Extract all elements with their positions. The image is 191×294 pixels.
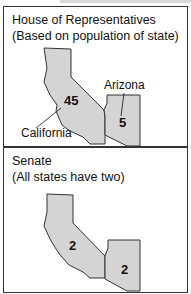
house-panel: House of Representatives (Based on popul… — [3, 6, 188, 147]
cropped-top-text — [60, 0, 191, 3]
california-shape — [44, 194, 105, 278]
senate-map: 2 2 — [4, 148, 189, 294]
california-leader-line — [36, 108, 61, 128]
arizona-label: Arizona — [104, 78, 145, 92]
california-house-seats: 45 — [64, 93, 78, 108]
senate-panel: Senate (All states have two) 2 2 — [3, 147, 188, 293]
california-label: California — [21, 126, 72, 140]
california-senate-seats: 2 — [69, 238, 76, 253]
arizona-house-seats: 5 — [119, 115, 126, 130]
arizona-senate-seats: 2 — [121, 262, 128, 277]
house-map: 45 5 California Arizona — [4, 7, 189, 148]
